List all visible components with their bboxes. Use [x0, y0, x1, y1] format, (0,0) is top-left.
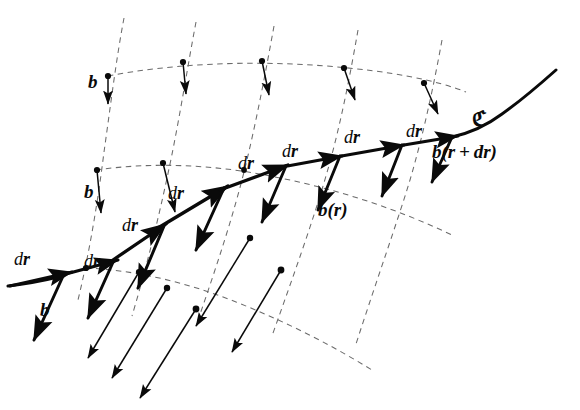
label-b-mid-left: b — [84, 182, 94, 201]
label-dr-5: dr — [238, 154, 254, 172]
field-vector-b — [344, 68, 355, 100]
label-dr-d: d — [282, 141, 291, 161]
transversal-middle — [96, 165, 454, 236]
label-dr-r: r — [177, 183, 184, 203]
label-b-of-r: b(r) — [318, 200, 348, 219]
field-vector-b — [424, 83, 438, 114]
field-vector-b-curve — [382, 145, 402, 196]
field-vector-b — [183, 62, 186, 94]
field-vectors-bottom — [88, 238, 281, 398]
dashed-grid — [78, 18, 466, 370]
label-dr-r: r — [353, 127, 360, 147]
field-vector-b — [196, 238, 250, 326]
field-vector-b — [112, 288, 167, 378]
label-dr-7: dr — [344, 128, 360, 146]
field-vector-b — [232, 270, 281, 352]
label-dr-r: r — [131, 215, 138, 235]
label-dr-d: d — [168, 183, 177, 203]
field-vector-b — [262, 61, 269, 95]
label-dr-d: d — [84, 251, 93, 271]
label-dr-2: dr — [84, 252, 100, 270]
field-vector-b — [140, 309, 196, 398]
label-dr-r: r — [415, 121, 422, 141]
label-dr-d: d — [238, 153, 247, 173]
curve-tail — [452, 70, 556, 137]
label-curve-C: ℭ — [472, 108, 487, 129]
label-dr-8: dr — [406, 122, 422, 140]
field-line-5 — [356, 40, 442, 344]
label-dr-3: dr — [122, 216, 138, 234]
vector-field-diagram: b b b b(r) b(r + dr) ℭ dr dr dr dr dr dr… — [0, 0, 580, 410]
label-dr-d: d — [406, 121, 415, 141]
label-dr-r: r — [93, 251, 100, 271]
label-b-bottom-left: b — [40, 300, 50, 319]
field-vectors-middle — [97, 163, 175, 213]
label-dr-d: d — [14, 249, 23, 269]
field-line-4 — [272, 30, 358, 336]
transversal-top — [108, 63, 466, 92]
transversal-bottom — [86, 268, 372, 370]
label-dr-1: dr — [14, 250, 30, 268]
label-dr-4: dr — [168, 184, 184, 202]
grid-transversals — [86, 63, 466, 370]
diagram-canvas — [0, 0, 580, 410]
label-dr-r: r — [247, 153, 254, 173]
grid-nodes — [83, 58, 427, 313]
label-dr-6: dr — [282, 142, 298, 160]
label-dr-d: d — [122, 215, 131, 235]
label-dr-r: r — [291, 141, 298, 161]
label-dr-r: r — [23, 249, 30, 269]
label-b-of-r-plus-dr: b(r + dr) — [432, 142, 497, 161]
label-dr-d: d — [344, 127, 353, 147]
label-b-top-left: b — [88, 72, 98, 91]
